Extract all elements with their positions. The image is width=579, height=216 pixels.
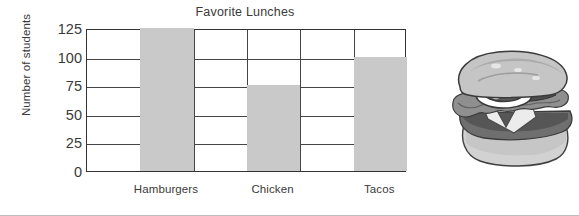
column-separator-2 xyxy=(194,30,195,171)
y-tick-125: 125 xyxy=(36,22,82,37)
plot-area xyxy=(86,29,406,172)
hamburger-illustration xyxy=(444,47,579,172)
page-bottom-rule xyxy=(0,215,579,216)
worksheet-page: Favorite Lunches Number of students 125 … xyxy=(0,0,579,216)
y-tick-0: 0 xyxy=(36,165,82,180)
y-tick-50: 50 xyxy=(36,108,82,123)
bar-hamburgers xyxy=(140,28,193,171)
y-tick-75: 75 xyxy=(36,79,82,94)
y-axis-ticks: 125 100 75 50 25 0 xyxy=(30,0,82,216)
chart-title: Favorite Lunches xyxy=(85,5,405,19)
y-tick-25: 25 xyxy=(36,136,82,151)
bar-chart: Favorite Lunches Number of students 125 … xyxy=(0,0,420,216)
bar-tacos xyxy=(354,57,407,171)
bar-chicken xyxy=(247,85,300,171)
x-tick-tacos: Tacos xyxy=(299,183,459,195)
y-tick-100: 100 xyxy=(36,51,82,66)
column-separator-4 xyxy=(300,30,301,171)
